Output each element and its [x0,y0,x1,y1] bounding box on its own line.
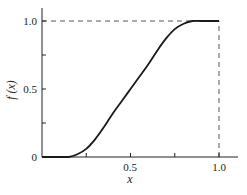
y-tick-label-0: 0 [32,151,38,163]
chart: 1.0 0.5 0 0.5 1.0 x f (x) [0,0,247,195]
x-tick-label-1: 1.0 [212,161,226,173]
y-axis-label: f (x) [4,80,18,100]
y-tick-label-05: 0.5 [23,83,37,95]
data-line-f-x [42,21,219,157]
y-tick-label-1: 1.0 [23,15,37,27]
x-axis-label: x [126,172,133,186]
